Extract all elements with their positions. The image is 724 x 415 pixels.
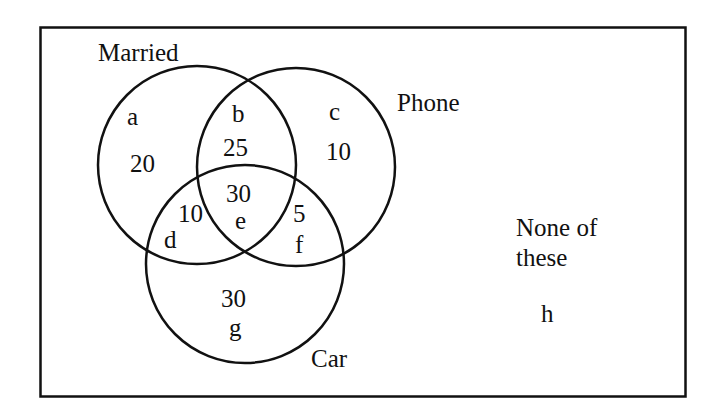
region-d-value: 10 (178, 200, 203, 227)
universe-box (41, 28, 686, 397)
venn-diagram: Married Phone Car None of these a 20 b 2… (0, 0, 724, 415)
region-g-value: 30 (221, 285, 246, 312)
region-e-value: 30 (226, 180, 251, 207)
region-a-value: 20 (130, 150, 155, 177)
region-b-letter: b (232, 100, 245, 127)
none-of-these-label-line1: None of (516, 214, 598, 241)
region-a-letter: a (127, 103, 138, 130)
region-c-letter: c (329, 98, 340, 125)
married-label: Married (98, 39, 179, 66)
phone-label: Phone (397, 89, 460, 116)
car-label: Car (311, 345, 348, 372)
region-g-letter: g (229, 314, 242, 341)
region-b-value: 25 (223, 134, 248, 161)
region-f-letter: f (295, 231, 304, 258)
region-f-value: 5 (293, 200, 306, 227)
none-of-these-label-line2: these (516, 244, 567, 271)
region-e-letter: e (235, 207, 246, 234)
region-h-letter: h (541, 300, 554, 327)
region-c-value: 10 (326, 138, 351, 165)
region-d-letter: d (164, 226, 177, 253)
